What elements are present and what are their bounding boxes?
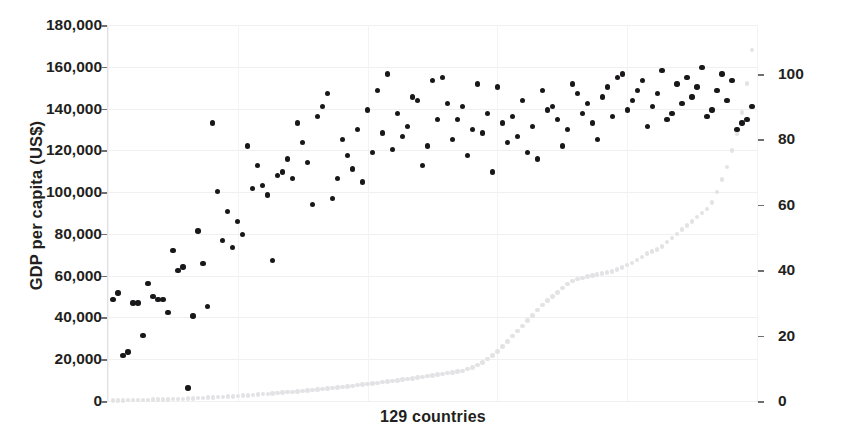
data-point-gdp xyxy=(375,381,380,386)
data-point-enrollment xyxy=(674,81,679,86)
left-tick-mark xyxy=(101,317,107,319)
data-point-gdp xyxy=(380,380,385,385)
data-point-gdp xyxy=(510,334,515,339)
data-point-enrollment xyxy=(310,202,315,207)
data-point-gdp xyxy=(665,240,670,245)
data-point-gdp xyxy=(580,276,585,281)
data-point-gdp xyxy=(290,390,295,395)
data-point-enrollment xyxy=(230,245,235,250)
data-point-gdp xyxy=(715,190,720,195)
data-point-enrollment xyxy=(505,140,510,145)
data-point-enrollment xyxy=(540,88,545,93)
data-point-enrollment xyxy=(360,179,365,184)
data-point-enrollment xyxy=(724,98,729,103)
data-point-gdp xyxy=(345,384,350,389)
data-point-gdp xyxy=(206,395,211,400)
data-point-enrollment xyxy=(620,71,625,76)
gridline-horizontal xyxy=(108,192,757,193)
data-point-gdp xyxy=(670,236,675,241)
right-tick-label: 60 xyxy=(778,197,795,213)
data-point-enrollment xyxy=(560,143,565,148)
data-point-enrollment xyxy=(330,196,335,201)
data-point-enrollment xyxy=(480,130,485,135)
left-tick-label: 80,000 xyxy=(55,226,102,242)
left-tick-mark xyxy=(101,401,107,403)
data-point-gdp xyxy=(231,394,236,399)
data-point-gdp xyxy=(390,379,395,384)
data-point-enrollment xyxy=(440,75,445,80)
data-point-enrollment xyxy=(435,117,440,122)
data-point-gdp xyxy=(405,377,410,382)
data-point-enrollment xyxy=(405,124,410,129)
data-point-gdp xyxy=(680,227,685,232)
data-point-gdp xyxy=(505,339,510,344)
data-point-gdp xyxy=(480,360,485,365)
data-point-enrollment xyxy=(545,107,550,112)
data-point-gdp xyxy=(655,247,660,252)
data-point-enrollment xyxy=(205,304,210,309)
gridline-vertical xyxy=(757,25,758,401)
data-point-gdp xyxy=(490,353,495,358)
data-point-enrollment xyxy=(185,385,190,390)
data-point-gdp xyxy=(545,298,550,303)
data-point-enrollment xyxy=(714,88,719,93)
data-point-enrollment xyxy=(495,84,500,89)
data-point-enrollment xyxy=(170,248,175,253)
data-point-gdp xyxy=(475,363,480,368)
data-point-enrollment xyxy=(525,150,530,155)
data-point-enrollment xyxy=(110,297,115,302)
data-point-enrollment xyxy=(490,169,495,174)
left-tick-mark xyxy=(101,109,107,111)
data-point-gdp xyxy=(485,357,490,362)
left-tick-mark xyxy=(101,150,107,152)
data-point-gdp xyxy=(625,263,630,268)
data-point-gdp xyxy=(700,211,705,216)
data-point-gdp xyxy=(196,396,201,401)
data-point-gdp xyxy=(565,282,570,287)
data-point-gdp xyxy=(360,382,365,387)
data-point-gdp xyxy=(236,394,241,399)
data-point-enrollment xyxy=(400,134,405,139)
data-point-gdp xyxy=(630,261,635,266)
data-point-enrollment xyxy=(235,219,240,224)
data-point-gdp xyxy=(710,200,715,205)
data-point-gdp xyxy=(425,374,430,379)
data-point-enrollment xyxy=(719,71,724,76)
data-point-enrollment xyxy=(659,68,664,73)
data-point-gdp xyxy=(445,371,450,376)
data-point-enrollment xyxy=(265,192,270,197)
data-point-gdp xyxy=(116,398,121,403)
data-point-gdp xyxy=(645,251,650,256)
data-point-gdp xyxy=(166,397,171,402)
data-point-gdp xyxy=(720,177,725,182)
data-point-gdp xyxy=(450,370,455,375)
data-point-gdp xyxy=(570,279,575,284)
gridline-vertical xyxy=(627,25,628,401)
data-point-gdp xyxy=(455,369,460,374)
data-point-enrollment xyxy=(385,71,390,76)
data-point-enrollment xyxy=(125,349,130,354)
data-point-enrollment xyxy=(510,114,515,119)
data-point-gdp xyxy=(111,398,116,403)
data-point-enrollment xyxy=(640,78,645,83)
data-point-enrollment xyxy=(530,124,535,129)
data-point-gdp xyxy=(211,395,216,400)
right-tick-label: 80 xyxy=(778,131,795,147)
gridline-horizontal xyxy=(108,150,757,151)
data-point-enrollment xyxy=(709,107,714,112)
left-tick-label: 40,000 xyxy=(55,309,102,325)
data-point-enrollment xyxy=(290,176,295,181)
data-point-enrollment xyxy=(645,124,650,129)
data-point-gdp xyxy=(465,367,470,372)
data-point-gdp xyxy=(285,390,290,395)
data-point-gdp xyxy=(590,273,595,278)
data-point-enrollment xyxy=(630,98,635,103)
data-point-gdp xyxy=(635,258,640,263)
data-point-gdp xyxy=(540,303,545,308)
data-point-gdp xyxy=(620,265,625,270)
gridline-vertical xyxy=(497,25,498,401)
data-point-gdp xyxy=(440,372,445,377)
data-point-gdp xyxy=(415,375,420,380)
data-point-gdp xyxy=(560,286,565,291)
data-point-enrollment xyxy=(280,169,285,174)
